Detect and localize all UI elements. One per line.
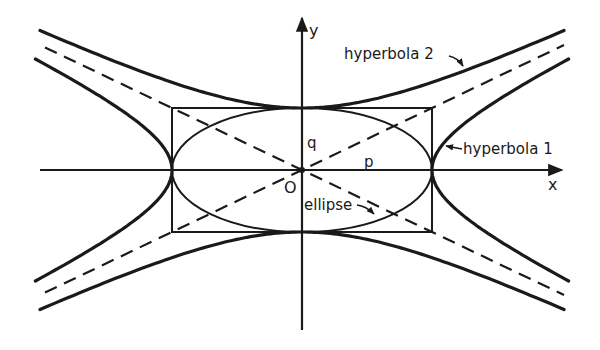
- hyperbola1-label: hyperbola 1: [463, 140, 553, 158]
- ellipse-label: ellipse: [304, 196, 352, 214]
- conic-diagram: y x O q p hyperbola 2 hyperbola 1 ellips…: [0, 0, 600, 350]
- hyperbola2-pointer-arrow: [449, 56, 463, 66]
- q-label: q: [307, 134, 317, 152]
- p-label: p: [364, 153, 374, 171]
- ellipse-pointer-arrow: [357, 205, 374, 214]
- origin-label: O: [284, 178, 297, 197]
- hyperbola1-pointer-arrow: [446, 146, 462, 149]
- y-axis-label: y: [309, 21, 318, 40]
- origin-point: [299, 167, 305, 173]
- x-axis-label: x: [548, 175, 557, 194]
- hyperbola2-label: hyperbola 2: [344, 45, 434, 63]
